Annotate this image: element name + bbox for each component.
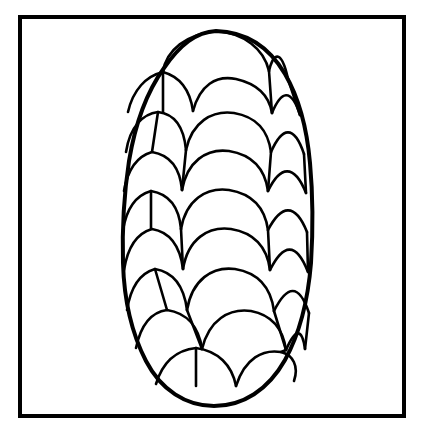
pine-cone-scale-divider: [281, 350, 286, 352]
coloring-page: Pine Cone: [0, 0, 421, 433]
pine-cone-scale-divider: [307, 232, 308, 272]
pine-cone: [123, 31, 313, 406]
line-art-canvas: [0, 0, 421, 433]
